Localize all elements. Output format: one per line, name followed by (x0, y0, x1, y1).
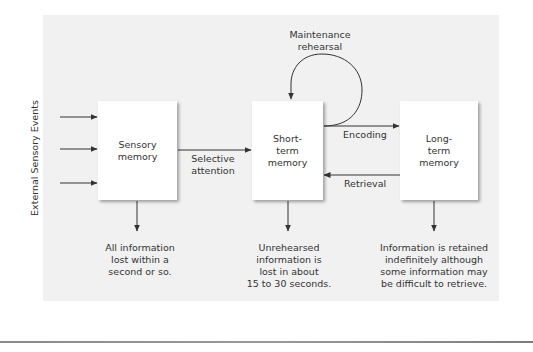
note-line: All information (92, 242, 188, 254)
note-line: lost in about (234, 266, 344, 278)
long-term-memory-box: Long- term memory (400, 101, 478, 200)
bottom-rule (0, 341, 533, 343)
maintenance-rehearsal-label: Maintenance rehearsal (280, 29, 360, 53)
note-line: Unrehearsed (234, 242, 344, 254)
box-label-line: term (419, 145, 459, 157)
retrieval-label: Retrieval (330, 178, 400, 190)
short-term-memory-note: Unrehearsed information is lost in about… (234, 242, 344, 290)
edge-label-line: rehearsal (280, 41, 360, 53)
box-label-line: term (268, 145, 308, 157)
box-label-line: Short- (268, 133, 308, 145)
note-line: be difficult to retrieve. (366, 278, 502, 290)
note-line: indefinitely although (366, 254, 502, 266)
note-line: 15 to 30 seconds. (234, 278, 344, 290)
sensory-memory-note: All information lost within a second or … (92, 242, 188, 278)
note-line: Information is retained (366, 242, 502, 254)
box-label-line: Long- (419, 133, 459, 145)
note-line: information is (234, 254, 344, 266)
box-label-line: memory (268, 157, 308, 169)
external-sensory-events-label: External Sensory Events (29, 100, 40, 216)
edge-label-line: attention (182, 165, 244, 177)
edge-label-line: Selective (182, 153, 244, 165)
encoding-label: Encoding (330, 129, 400, 141)
selective-attention-label: Selective attention (182, 153, 244, 177)
note-line: some information may (366, 266, 502, 278)
edge-label-line: Maintenance (280, 29, 360, 41)
note-line: second or so. (92, 266, 188, 278)
box-label-line: memory (118, 151, 158, 163)
box-label-line: Sensory (118, 139, 158, 151)
note-line: lost within a (92, 254, 188, 266)
box-label-line: memory (419, 157, 459, 169)
sensory-memory-box: Sensory memory (98, 101, 177, 200)
long-term-memory-note: Information is retained indefinitely alt… (366, 242, 502, 290)
short-term-memory-box: Short- term memory (252, 101, 323, 200)
external-input-arrows (60, 117, 97, 183)
